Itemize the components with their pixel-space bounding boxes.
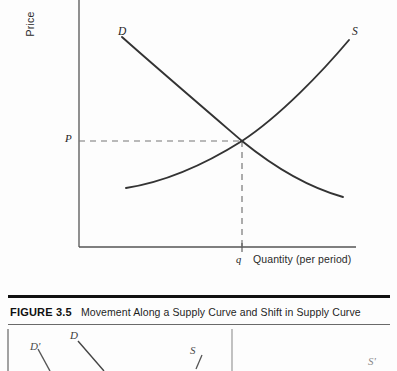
- equilibrium-price-label: P: [65, 132, 72, 144]
- next-demand-shifted-label: D': [30, 340, 40, 352]
- supply-demand-chart: Price Quantity (per period) D S P q: [0, 0, 397, 290]
- x-axis-title: Quantity (per period): [253, 253, 351, 265]
- figure-page: Price Quantity (per period) D S P q FIGU…: [0, 0, 397, 371]
- next-supply-curve: [196, 355, 202, 369]
- equilibrium-quantity-label: q: [236, 254, 241, 265]
- next-demand-curve: [78, 341, 104, 371]
- supply-curve: [126, 40, 349, 188]
- next-figure-canvas: [0, 327, 397, 371]
- next-demand-label: D: [70, 329, 78, 341]
- next-supply-label: S: [190, 344, 196, 356]
- next-demand-shifted-curve: [38, 349, 50, 371]
- figure-caption: FIGURE 3.5 Movement Along a Supply Curve…: [10, 302, 395, 322]
- next-figure-preview: D' D S S': [0, 327, 397, 371]
- supply-curve-label: S: [352, 25, 358, 37]
- chart-canvas: [0, 0, 397, 290]
- caption-rule-bottom: [8, 324, 390, 325]
- y-axis-title: Price: [24, 0, 36, 64]
- demand-curve-label: D: [118, 25, 126, 37]
- figure-number: FIGURE 3.5: [10, 306, 72, 318]
- demand-curve: [122, 37, 343, 197]
- figure-caption-text: Movement Along a Supply Curve and Shift …: [81, 306, 361, 318]
- caption-rule-top: [8, 295, 390, 298]
- next-supply-shifted-label: S': [368, 355, 376, 367]
